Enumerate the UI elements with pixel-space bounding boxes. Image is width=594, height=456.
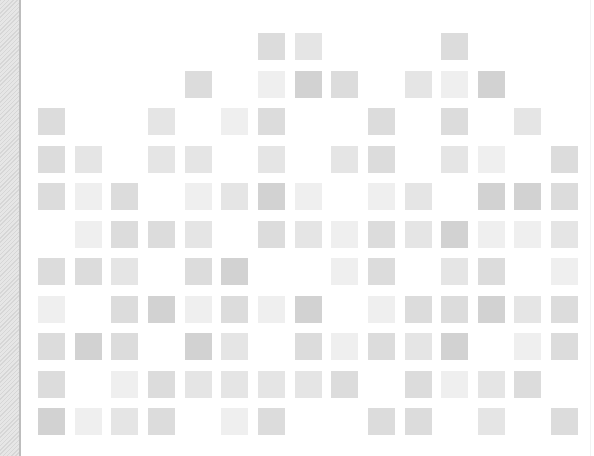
grid-square <box>441 296 468 323</box>
grid-square <box>441 71 468 98</box>
grid-square <box>258 296 285 323</box>
grid-square <box>551 296 578 323</box>
grid-square <box>185 333 212 360</box>
grid-square <box>514 371 541 398</box>
grid-square <box>111 296 138 323</box>
grid-square <box>478 71 505 98</box>
grid-square <box>38 333 65 360</box>
grid-square <box>221 333 248 360</box>
grid-square <box>368 108 395 135</box>
grid-square <box>441 371 468 398</box>
grid-square <box>185 221 212 248</box>
grid-square <box>258 183 285 210</box>
grid-square <box>258 108 285 135</box>
grid-square <box>38 108 65 135</box>
grid-square <box>441 33 468 60</box>
grid-square <box>295 296 322 323</box>
grid-square <box>441 221 468 248</box>
grid-square <box>551 146 578 173</box>
grid-square <box>368 296 395 323</box>
grid-square <box>185 71 212 98</box>
grid-square <box>258 33 285 60</box>
grid-square <box>185 296 212 323</box>
grid-square <box>331 221 358 248</box>
grid-square <box>331 258 358 285</box>
grid-square <box>478 221 505 248</box>
grid-square <box>185 146 212 173</box>
grid-square <box>331 146 358 173</box>
grid-square <box>478 258 505 285</box>
grid-square <box>295 333 322 360</box>
grid-square <box>478 296 505 323</box>
grid-square <box>111 408 138 435</box>
grid-square <box>331 371 358 398</box>
grid-square <box>185 183 212 210</box>
grid-square <box>75 258 102 285</box>
grid-square <box>295 221 322 248</box>
grid-square <box>295 371 322 398</box>
grid-square <box>38 258 65 285</box>
grid-square <box>111 183 138 210</box>
grid-square <box>38 146 65 173</box>
grid-square <box>295 71 322 98</box>
grid-square <box>368 258 395 285</box>
grid-square <box>221 408 248 435</box>
grid-square <box>111 258 138 285</box>
grid-square <box>368 408 395 435</box>
grid-square <box>551 258 578 285</box>
grid-square <box>441 333 468 360</box>
grid-square <box>258 371 285 398</box>
grid-square <box>148 108 175 135</box>
grid-square <box>551 333 578 360</box>
grid-square <box>368 333 395 360</box>
grid-square <box>148 371 175 398</box>
grid-square <box>148 146 175 173</box>
grid-square <box>221 258 248 285</box>
grid-square <box>295 33 322 60</box>
grid-square <box>514 296 541 323</box>
grid-square <box>38 371 65 398</box>
grid-square <box>148 221 175 248</box>
grid-square <box>221 371 248 398</box>
grid-square <box>258 71 285 98</box>
square-grid <box>0 0 594 456</box>
grid-square <box>111 371 138 398</box>
grid-square <box>514 108 541 135</box>
grid-square <box>75 333 102 360</box>
grid-square <box>514 333 541 360</box>
grid-square <box>441 146 468 173</box>
grid-square <box>221 183 248 210</box>
grid-square <box>405 333 432 360</box>
grid-square <box>38 183 65 210</box>
grid-square <box>551 408 578 435</box>
grid-square <box>38 296 65 323</box>
grid-square <box>295 183 322 210</box>
grid-square <box>368 146 395 173</box>
grid-square <box>441 258 468 285</box>
grid-square <box>75 221 102 248</box>
grid-square <box>111 333 138 360</box>
grid-square <box>405 71 432 98</box>
grid-square <box>331 71 358 98</box>
grid-square <box>148 296 175 323</box>
grid-square <box>221 296 248 323</box>
grid-square <box>111 221 138 248</box>
grid-square <box>258 146 285 173</box>
grid-square <box>221 108 248 135</box>
grid-square <box>478 371 505 398</box>
grid-square <box>551 221 578 248</box>
grid-square <box>514 183 541 210</box>
grid-square <box>75 408 102 435</box>
grid-square <box>148 408 175 435</box>
grid-square <box>185 258 212 285</box>
grid-square <box>38 408 65 435</box>
grid-square <box>441 108 468 135</box>
grid-square <box>405 296 432 323</box>
grid-square <box>368 183 395 210</box>
grid-square <box>368 221 395 248</box>
grid-square <box>75 183 102 210</box>
grid-square <box>514 221 541 248</box>
grid-square <box>258 408 285 435</box>
grid-square <box>478 408 505 435</box>
grid-square <box>185 371 212 398</box>
